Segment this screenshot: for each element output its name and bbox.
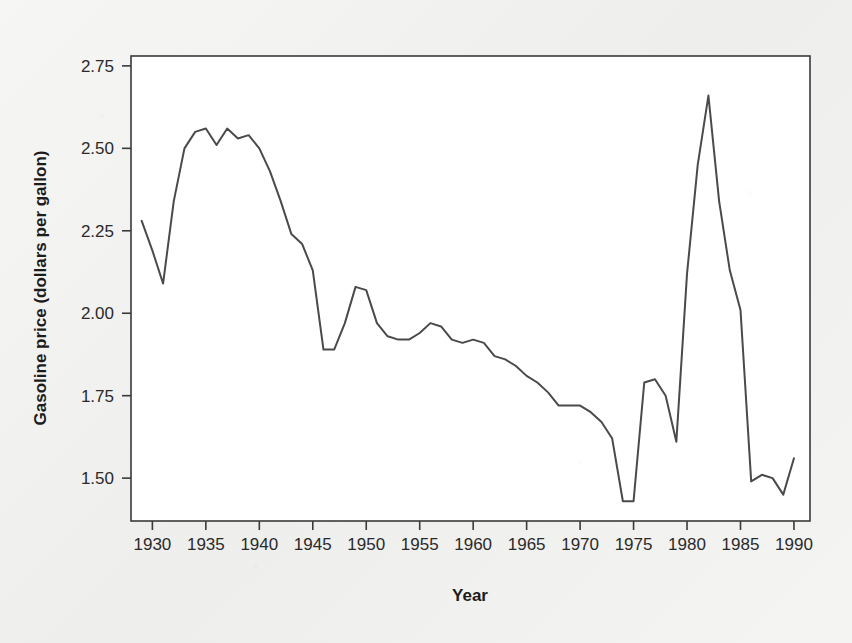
- x-tick-label: 1980: [668, 535, 706, 554]
- plot-area-background: [131, 56, 810, 521]
- x-tick-label: 1955: [401, 535, 439, 554]
- y-tick-label: 1.50: [81, 469, 114, 488]
- x-tick-label: 1945: [294, 535, 332, 554]
- y-tick-label: 2.25: [81, 222, 114, 241]
- x-axis: 1930193519401945195019551960196519701975…: [133, 521, 812, 554]
- x-tick-label: 1970: [561, 535, 599, 554]
- x-tick-label: 1985: [722, 535, 760, 554]
- x-tick-label: 1935: [187, 535, 225, 554]
- y-tick-label: 2.00: [81, 304, 114, 323]
- y-tick-label: 2.75: [81, 57, 114, 76]
- x-tick-label: 1960: [454, 535, 492, 554]
- y-axis: 1.501.752.002.252.502.75: [81, 57, 131, 488]
- x-tick-label: 1930: [133, 535, 171, 554]
- y-axis-title: Gasoline price (dollars per gallon): [31, 151, 50, 426]
- x-axis-title: Year: [452, 586, 488, 605]
- x-tick-label: 1975: [615, 535, 653, 554]
- y-tick-label: 1.75: [81, 387, 114, 406]
- x-tick-label: 1950: [347, 535, 385, 554]
- x-tick-label: 1940: [240, 535, 278, 554]
- x-tick-label: 1990: [775, 535, 813, 554]
- figure-container: 1.501.752.002.252.502.75 193019351940194…: [0, 0, 852, 643]
- x-tick-label: 1965: [508, 535, 546, 554]
- y-tick-label: 2.50: [81, 139, 114, 158]
- gasoline-price-line-chart: 1.501.752.002.252.502.75 193019351940194…: [0, 0, 852, 643]
